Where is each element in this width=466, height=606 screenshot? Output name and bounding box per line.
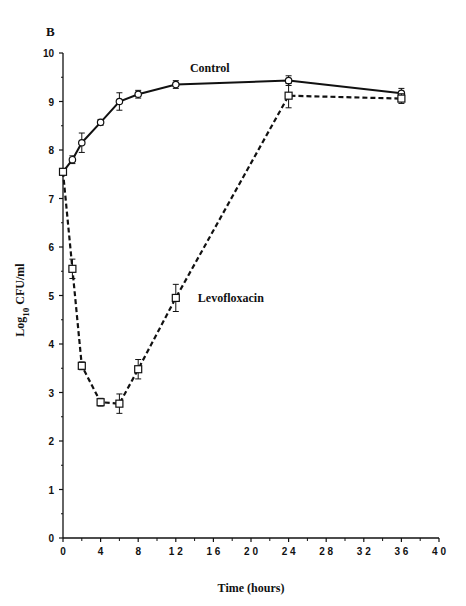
x-tick-label: 2 0 [244,546,258,557]
x-tick-label: 3 2 [357,546,371,557]
data-point-square [398,95,405,102]
x-tick-label: 0 [60,546,66,557]
series-line [63,81,401,172]
y-tick-label: 4 [48,339,54,350]
data-point-square [116,400,123,407]
data-point-circle [97,119,103,125]
y-tick-label: 7 [48,194,54,205]
y-tick-label: 8 [48,145,54,156]
x-tick-label: 1 6 [206,546,220,557]
series-line [63,96,401,404]
chart: B 0123456789100481 21 62 02 42 83 23 64 … [0,0,466,606]
y-tick-label: 9 [48,97,54,108]
data-point-circle [79,140,85,146]
y-tick-label: 10 [43,48,55,59]
y-tick-label: 3 [48,388,54,399]
data-point-circle [116,98,122,104]
x-tick-label: 8 [135,546,141,557]
y-tick-label: 2 [48,436,54,447]
y-tick-label: 6 [48,242,54,253]
series-layer: ControlLevofloxacin [60,61,405,414]
data-point-circle [173,81,179,87]
x-tick-label: 1 2 [169,546,183,557]
y-axis-title-main: Log [13,317,27,337]
data-point-square [135,366,142,373]
y-tick-label: 0 [48,533,54,544]
y-tick-label: 5 [48,291,54,302]
data-point-circle [135,91,141,97]
data-point-circle [285,77,291,83]
x-axis-title: Time (hours) [218,581,285,595]
y-tick-label: 1 [48,485,54,496]
svg-text:Log10 CFU/ml: Log10 CFU/ml [13,263,31,337]
data-point-square [60,168,67,175]
panel-label: B [46,24,55,39]
y-axis-title-unit: CFU/ml [13,263,27,305]
x-tick-label: 2 4 [282,546,296,557]
data-point-square [285,92,292,99]
series-label-levofloxacin: Levofloxacin [198,291,264,305]
data-point-square [69,265,76,272]
data-point-circle [69,157,75,163]
data-point-square [172,294,179,301]
data-point-square [97,399,104,406]
x-tick-label: 2 8 [319,546,333,557]
series-control: Control [60,61,405,175]
x-tick-label: 3 6 [394,546,408,557]
data-point-square [78,362,85,369]
series-label-control: Control [190,61,230,75]
x-tick-label: 4 [98,546,104,557]
x-tick-label: 4 0 [432,546,446,557]
y-axis-title: Log10 CFU/ml [13,263,31,337]
series-levofloxacin: Levofloxacin [60,84,405,414]
